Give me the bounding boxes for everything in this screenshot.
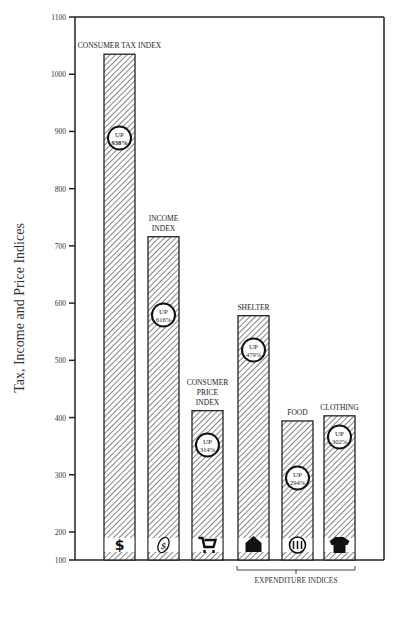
svg-text:EXPENDITURE INDICES: EXPENDITURE INDICES xyxy=(254,576,337,585)
bar-label: CONSUMER xyxy=(187,378,229,387)
y-tick-label: 900 xyxy=(55,127,67,136)
svg-text:479%: 479% xyxy=(246,351,262,358)
svg-text:938%: 938% xyxy=(111,139,127,146)
svg-text:UP: UP xyxy=(293,471,302,479)
bar-3: SHELTERUP479% xyxy=(237,303,269,560)
svg-text:314%: 314% xyxy=(200,446,216,453)
svg-text:UP: UP xyxy=(159,308,168,316)
svg-text:$: $ xyxy=(115,537,125,553)
y-tick-label: 1000 xyxy=(51,70,66,79)
bar-label: INCOME xyxy=(149,214,179,223)
bar-5: CLOTHINGUP302% xyxy=(320,403,359,560)
svg-text:302%: 302% xyxy=(332,438,348,445)
bar-1: $INCOMEINDEXUP616% xyxy=(148,214,179,560)
y-tick-label: 400 xyxy=(55,414,67,423)
svg-text:$: $ xyxy=(161,541,167,551)
bar-label: CLOTHING xyxy=(320,403,359,412)
bar-4: FOODUP294% xyxy=(282,408,313,560)
expenditure-bracket: EXPENDITURE INDICES xyxy=(237,566,355,585)
dollar-icon: $ xyxy=(115,537,125,553)
bars-group: $CONSUMER TAX INDEXUP938%$INCOMEINDEXUP6… xyxy=(78,41,359,585)
bar-chart: 10020030040050060070080090010001100 $CON… xyxy=(0,0,399,623)
svg-text:UP: UP xyxy=(249,343,258,351)
y-tick-label: 700 xyxy=(55,242,67,251)
bar-label: CONSUMER TAX INDEX xyxy=(78,41,162,50)
y-tick-label: 500 xyxy=(55,356,67,365)
svg-text:UP: UP xyxy=(203,438,212,446)
y-tick-label: 100 xyxy=(55,556,67,565)
bar-rect xyxy=(148,237,179,560)
y-tick-label: 1100 xyxy=(51,13,66,22)
bar-label: INDEX xyxy=(152,224,176,233)
y-tick-label: 600 xyxy=(55,299,67,308)
y-tick-label: 800 xyxy=(55,185,67,194)
bar-label: FOOD xyxy=(287,408,308,417)
svg-text:UP: UP xyxy=(115,131,124,139)
y-tick-label: 200 xyxy=(55,528,67,537)
bar-label: INDEX xyxy=(196,398,220,407)
y-tick-label: 300 xyxy=(55,471,67,480)
svg-text:294%: 294% xyxy=(290,479,306,486)
bar-label: PRICE xyxy=(197,388,219,397)
bar-2: CONSUMERPRICEINDEXUP314% xyxy=(187,378,229,560)
bar-label: SHELTER xyxy=(237,303,269,312)
svg-text:UP: UP xyxy=(335,430,344,438)
svg-text:616%: 616% xyxy=(156,316,172,323)
